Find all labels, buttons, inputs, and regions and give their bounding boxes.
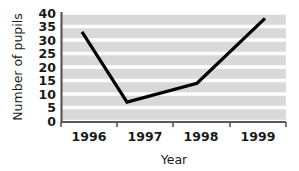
chart-canvas: 40 35 30 25 20 15 10 5 0 1996 1997 1998 …	[0, 0, 299, 171]
x-tick-label: 1998	[184, 129, 219, 144]
x-tick-label: 1996	[72, 129, 107, 144]
y-tick-label: 0	[47, 114, 56, 129]
y-axis-tick-labels: 40 35 30 25 20 15 10 5 0	[39, 6, 57, 129]
x-tick-label: 1997	[128, 129, 163, 144]
x-tick-label: 1999	[241, 129, 276, 144]
x-axis-tick-labels: 1996 1997 1998 1999	[72, 129, 276, 144]
x-axis-title: Year	[160, 152, 188, 167]
y-axis-title: Number of pupils	[10, 13, 25, 120]
line-chart-figure: 40 35 30 25 20 15 10 5 0 1996 1997 1998 …	[0, 0, 299, 171]
